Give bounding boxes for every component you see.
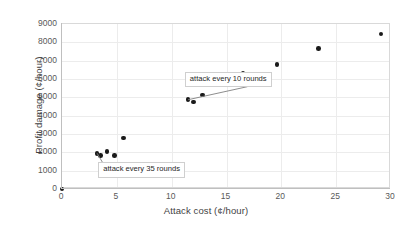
data-point bbox=[98, 153, 103, 158]
y-axis-tick-labels: 0100020003000400050006000700080009000 bbox=[0, 0, 57, 228]
x-axis-tick-label: 30 bbox=[385, 191, 394, 201]
x-axis-tick-label: 15 bbox=[221, 191, 230, 201]
x-axis-tick-label: 20 bbox=[276, 191, 285, 201]
scatter-chart: attack every 10 roundsattack every 35 ro… bbox=[0, 0, 412, 228]
y-axis-title: Profit damage (¢/hour) bbox=[33, 20, 44, 190]
x-axis-tick-label: 0 bbox=[59, 191, 64, 201]
gridline-horizontal bbox=[62, 97, 389, 98]
gridline-vertical bbox=[336, 24, 337, 187]
gridline-horizontal bbox=[62, 152, 389, 153]
annotation-label: attack every 35 rounds bbox=[98, 162, 185, 177]
x-axis-line bbox=[61, 188, 390, 189]
plot-area: attack every 10 roundsattack every 35 ro… bbox=[61, 23, 390, 188]
x-axis-title: Attack cost (¢/hour) bbox=[0, 205, 412, 216]
x-axis-tick-label: 5 bbox=[113, 191, 118, 201]
x-axis-tick-label: 25 bbox=[330, 191, 339, 201]
gridline-horizontal bbox=[62, 134, 389, 135]
data-point bbox=[121, 136, 126, 141]
data-point bbox=[105, 149, 110, 154]
annotation-label: attack every 10 rounds bbox=[185, 72, 272, 87]
gridline-horizontal bbox=[62, 42, 389, 43]
y-axis-title-host: Profit damage (¢/hour) bbox=[13, 0, 27, 210]
y-axis-line bbox=[61, 23, 62, 188]
gridline-vertical bbox=[227, 24, 228, 187]
x-axis-tick-label: 10 bbox=[166, 191, 175, 201]
data-point bbox=[191, 100, 196, 105]
data-point bbox=[379, 32, 384, 37]
data-point bbox=[186, 97, 191, 102]
data-point bbox=[112, 153, 117, 158]
data-point bbox=[316, 46, 321, 51]
data-point bbox=[200, 93, 205, 98]
data-point bbox=[275, 62, 280, 67]
gridline-vertical bbox=[281, 24, 282, 187]
gridline-horizontal bbox=[62, 116, 389, 117]
gridline-horizontal bbox=[62, 61, 389, 62]
